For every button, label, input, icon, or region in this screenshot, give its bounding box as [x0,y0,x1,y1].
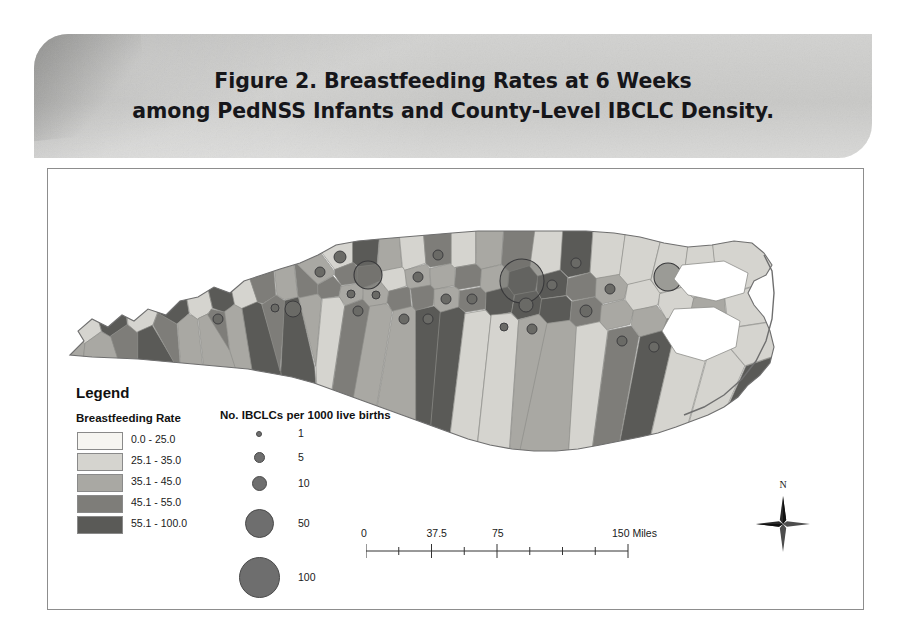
county-polygon[interactable] [451,169,475,268]
title-line-2: among PedNSS Infants and County-Level IB… [34,96,872,126]
legend-rate-row[interactable]: 0.0 - 25.0 [77,431,227,450]
legend-color-swatch [77,516,123,534]
ibclc-density-bubble[interactable] [519,298,533,312]
legend-bubble-symbol [256,431,262,437]
ibclc-density-bubble[interactable] [423,314,433,324]
county-polygon[interactable] [48,169,127,337]
legend-color-swatch [77,474,123,492]
legend-bubble-label: 100 [298,571,316,583]
county-polygon[interactable] [455,264,482,289]
county-polygon[interactable] [194,169,276,304]
legend-rate-label: 25.1 - 35.0 [131,454,181,466]
county-polygon[interactable] [111,169,158,333]
legend-bubble-label: 10 [298,477,310,489]
legend-rate-label: 55.1 - 100.0 [131,517,187,529]
ibclc-density-bubble[interactable] [500,323,508,331]
legend-bubble-row[interactable]: 100 [234,557,344,600]
ibclc-density-bubble[interactable] [354,261,382,289]
ibclc-density-bubble[interactable] [372,291,380,299]
ibclc-density-bubble[interactable] [347,290,355,298]
compass-rose: N [753,479,813,557]
legend-rate-row[interactable]: 45.1 - 55.0 [77,494,227,513]
county-polygon[interactable] [196,169,258,309]
ibclc-density-bubble[interactable] [413,272,423,282]
legend-bubble-row[interactable]: 5 [234,452,344,465]
ibclc-density-bubble[interactable] [285,301,301,317]
ibclc-density-bubble[interactable] [315,267,325,277]
legend-rate-label: 35.1 - 45.0 [131,475,181,487]
county-polygon[interactable] [430,263,455,289]
ibclc-density-bubble[interactable] [547,280,557,290]
legend-heading: Legend [76,384,129,401]
scale-bar-ticks [366,543,656,567]
county-polygon[interactable] [113,169,189,324]
scale-bar-tick-label: 0 [361,527,367,539]
county-polygon[interactable] [155,169,213,319]
ibclc-density-bubble[interactable] [334,251,346,263]
compass-star-icon [753,493,813,555]
ibclc-density-bubble[interactable] [580,305,592,317]
legend-bubble-row[interactable]: 10 [234,476,344,493]
ibclc-density-bubble[interactable] [500,259,544,303]
ibclc-density-bubble[interactable] [271,304,279,312]
ibclc-density-bubble[interactable] [571,258,581,268]
legend-rate-row[interactable]: 25.1 - 35.0 [77,452,227,471]
north-label: N [753,479,813,490]
ibclc-density-bubble[interactable] [213,314,223,324]
scale-bar: 037.575150 Miles [366,527,656,569]
legend-color-swatch [77,453,123,471]
legend-bubble-label: 50 [298,517,310,529]
legend-bubble-symbol [245,509,274,538]
scale-bar-tick-label: 75 [492,527,504,539]
ibclc-density-bubble[interactable] [605,284,615,294]
legend-bubble-symbol [254,452,265,463]
page-title: Figure 2. Breastfeeding Rates at 6 Weeks… [34,66,872,126]
legend-bubble-symbol [239,557,280,598]
ibclc-density-bubble[interactable] [433,250,443,260]
legend-bubble-symbol [252,476,267,491]
legend-color-swatch [77,432,123,450]
ibclc-density-bubble[interactable] [617,336,627,346]
scale-bar-tick-label: 37.5 [427,527,447,539]
county-polygon[interactable] [48,169,101,344]
legend-rate-row[interactable]: 55.1 - 100.0 [77,515,227,534]
ibclc-density-bubble[interactable] [441,294,451,304]
ibclc-density-bubble[interactable] [649,342,659,352]
legend-bubble-heading: No. IBCLCs per 1000 live births [220,409,391,421]
legend-rate-heading: Breastfeeding Rate [76,412,181,424]
legend-bubble-label: 1 [298,427,304,439]
county-polygon[interactable] [48,241,85,609]
legend-color-swatch [77,495,123,513]
title-line-1: Figure 2. Breastfeeding Rates at 6 Weeks [34,66,872,96]
legend-bubble-label: 5 [298,451,304,463]
legend-rate-row[interactable]: 35.1 - 45.0 [77,473,227,492]
legend-bubble-row[interactable]: 50 [234,509,344,540]
ibclc-density-bubble[interactable] [353,306,363,316]
legend-rate-label: 0.0 - 25.0 [131,433,175,445]
legend-bubble-row[interactable]: 1 [234,431,344,439]
ibclc-density-bubble[interactable] [399,314,409,324]
legend-rate-label: 45.1 - 55.0 [131,496,181,508]
county-polygon[interactable] [377,169,402,272]
figure-title-banner: Figure 2. Breastfeeding Rates at 6 Weeks… [34,34,872,158]
map-frame: Legend Breastfeeding Rate No. IBCLCs per… [47,168,864,610]
ibclc-density-bubble[interactable] [527,324,537,334]
ibclc-density-bubble[interactable] [467,294,477,304]
county-polygon[interactable] [539,296,572,324]
county-polygon[interactable] [111,324,139,422]
scale-bar-tick-label: 150 Miles [612,527,657,539]
